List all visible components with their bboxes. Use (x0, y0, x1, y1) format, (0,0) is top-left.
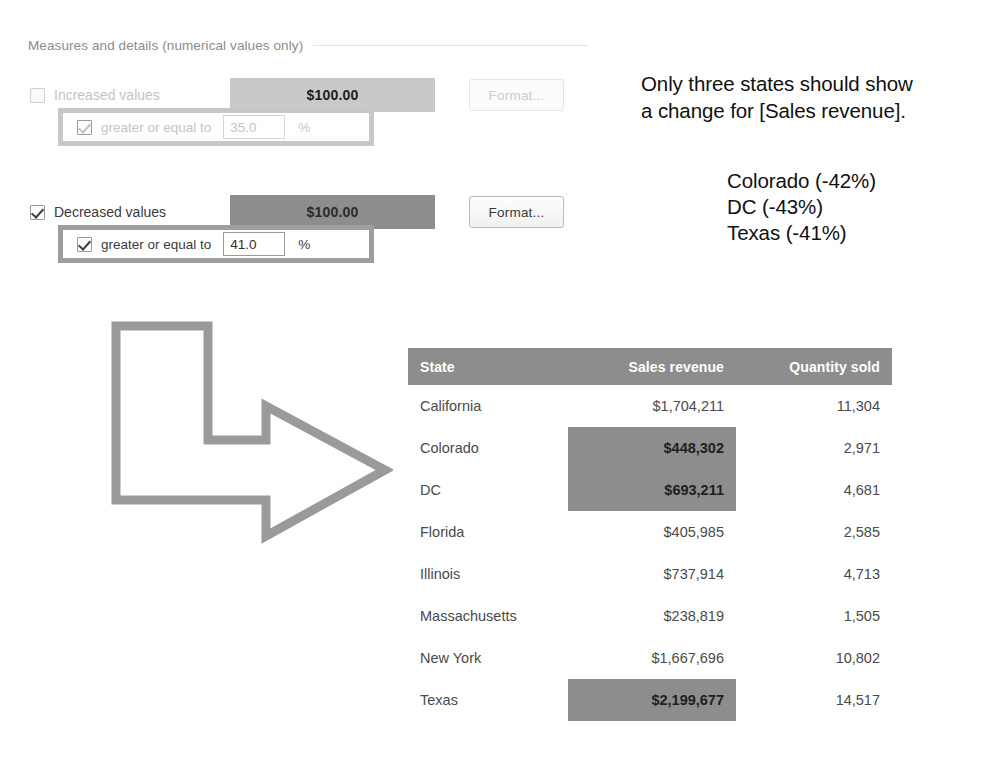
checkbox-increased-values[interactable] (30, 88, 45, 103)
annotation-state-item: Texas (-41%) (727, 220, 876, 246)
checkbox-condition-decreased[interactable] (77, 237, 92, 252)
annotation-state-list: Colorado (-42%) DC (-43%) Texas (-41%) (727, 168, 876, 246)
bent-arrow-outline (116, 326, 385, 536)
condition-label-increased: greater or equal to (101, 120, 211, 135)
cell-state: Florida (408, 511, 568, 553)
cell-quantity-sold: 14,517 (736, 679, 892, 721)
condition-unit-decreased: % (298, 237, 310, 252)
cell-state: Colorado (408, 427, 568, 469)
annotation-text: Only three states should show a change f… (641, 70, 986, 124)
section-divider (313, 45, 588, 46)
bent-arrow-svg (108, 318, 393, 548)
cell-quantity-sold: 4,681 (736, 469, 892, 511)
data-table: State Sales revenue Quantity sold Califo… (408, 348, 892, 721)
checkbox-condition-increased[interactable] (77, 120, 92, 135)
column-header-sales-revenue[interactable]: Sales revenue (568, 348, 736, 385)
table-row: Illinois $737,914 4,713 (408, 553, 892, 595)
column-header-quantity-sold[interactable]: Quantity sold (736, 348, 892, 385)
cell-quantity-sold: 1,505 (736, 595, 892, 637)
cell-quantity-sold: 2,585 (736, 511, 892, 553)
cell-quantity-sold: 2,971 (736, 427, 892, 469)
checkbox-decreased-values[interactable] (30, 205, 45, 220)
table-row: Colorado $448,302 2,971 (408, 427, 892, 469)
cell-sales-revenue: $238,819 (568, 595, 736, 637)
cell-sales-revenue: $1,704,211 (568, 385, 736, 427)
bent-arrow-right-icon (108, 318, 393, 548)
section-title: Measures and details (numerical values o… (28, 38, 303, 53)
table-row: DC $693,211 4,681 (408, 469, 892, 511)
sample-swatch-increased[interactable]: $100.00 (230, 78, 435, 112)
cell-state: New York (408, 637, 568, 679)
condition-panel-increased: greater or equal to 35.0 % (58, 108, 374, 146)
cell-sales-revenue-highlighted: $693,211 (568, 469, 736, 511)
condition-label-decreased: greater or equal to (101, 237, 211, 252)
label-increased-values: Increased values (54, 87, 230, 103)
cell-sales-revenue: $737,914 (568, 553, 736, 595)
annotation-state-item: DC (-43%) (727, 194, 876, 220)
rule-row-increased: Increased values $100.00 Format... (30, 78, 564, 112)
condition-unit-increased: % (298, 120, 310, 135)
cell-sales-revenue-highlighted: $448,302 (568, 427, 736, 469)
cell-quantity-sold: 4,713 (736, 553, 892, 595)
annotation-state-item: Colorado (-42%) (727, 168, 876, 194)
cell-state: Illinois (408, 553, 568, 595)
cell-quantity-sold: 10,802 (736, 637, 892, 679)
cell-sales-revenue-highlighted: $2,199,677 (568, 679, 736, 721)
table-row: Florida $405,985 2,585 (408, 511, 892, 553)
cell-state: Massachusetts (408, 595, 568, 637)
condition-value-input-increased[interactable]: 35.0 (223, 115, 285, 139)
format-button-decreased[interactable]: Format... (469, 196, 564, 228)
cell-state: Texas (408, 679, 568, 721)
table-row: Massachusetts $238,819 1,505 (408, 595, 892, 637)
condition-value-input-decreased[interactable]: 41.0 (223, 232, 285, 256)
rule-block-decreased: Decreased values $100.00 Format... great… (30, 195, 564, 263)
cell-quantity-sold: 11,304 (736, 385, 892, 427)
condition-panel-decreased: greater or equal to 41.0 % (58, 225, 374, 263)
cell-state: DC (408, 469, 568, 511)
format-button-increased[interactable]: Format... (469, 79, 564, 111)
column-header-state[interactable]: State (408, 348, 568, 385)
table-row: New York $1,667,696 10,802 (408, 637, 892, 679)
rule-block-increased: Increased values $100.00 Format... great… (30, 78, 564, 146)
table-row: California $1,704,211 11,304 (408, 385, 892, 427)
table-row: Texas $2,199,677 14,517 (408, 679, 892, 721)
cell-state: California (408, 385, 568, 427)
annotation-line-1: Only three states should show (641, 70, 986, 97)
rule-row-decreased: Decreased values $100.00 Format... (30, 195, 564, 229)
label-decreased-values: Decreased values (54, 204, 230, 220)
table-header-row: State Sales revenue Quantity sold (408, 348, 892, 385)
table-body: California $1,704,211 11,304 Colorado $4… (408, 385, 892, 721)
top-cropped-artifact (130, 0, 430, 14)
cell-sales-revenue: $1,667,696 (568, 637, 736, 679)
annotation-line-2: a change for [Sales revenue]. (641, 97, 986, 124)
table-header: State Sales revenue Quantity sold (408, 348, 892, 385)
cell-sales-revenue: $405,985 (568, 511, 736, 553)
sample-swatch-decreased[interactable]: $100.00 (230, 195, 435, 229)
section-header: Measures and details (numerical values o… (28, 38, 588, 53)
